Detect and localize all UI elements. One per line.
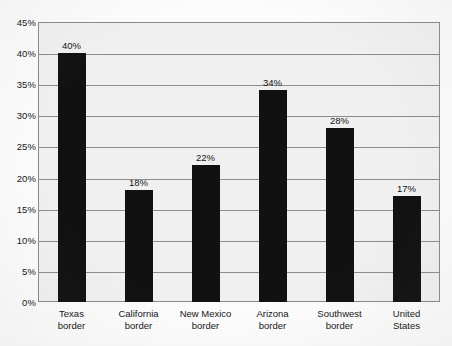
bar-value-label: 34% — [263, 77, 282, 88]
gridline — [39, 241, 439, 242]
gridline — [39, 210, 439, 211]
gridline — [39, 85, 439, 86]
gridline — [39, 147, 439, 148]
x-axis-category-label-line: States — [393, 320, 420, 332]
y-axis-tick-label: 25% — [17, 141, 36, 152]
y-axis-tick-label: 5% — [22, 265, 36, 276]
x-axis-category-label-line: border — [256, 320, 288, 332]
x-axis-category-label: Southwestborder — [317, 308, 361, 331]
bar — [58, 53, 86, 302]
y-axis-tick-label: 10% — [17, 234, 36, 245]
y-axis-tick-label: 40% — [17, 48, 36, 59]
x-axis-category-label-line: California — [118, 308, 158, 320]
bar — [259, 90, 287, 302]
bar — [393, 196, 421, 302]
x-axis-category-label-line: border — [58, 320, 85, 332]
bar — [192, 165, 220, 302]
bar-value-label: 28% — [330, 115, 349, 126]
x-axis-category-label-line: border — [118, 320, 158, 332]
y-axis-tick-label: 20% — [17, 172, 36, 183]
gridline — [39, 54, 439, 55]
bar — [326, 128, 354, 302]
plot-area — [38, 22, 440, 302]
x-axis-category-label: Californiaborder — [118, 308, 158, 331]
bar-value-label: 22% — [196, 152, 215, 163]
y-axis-tick-label: 35% — [17, 79, 36, 90]
gridline — [39, 272, 439, 273]
x-axis-category-label-line: United — [393, 308, 420, 320]
bar-chart: 0%5%10%15%20%25%30%35%40%45% 40%18%22%34… — [0, 0, 452, 346]
x-axis-category-label: UnitedStates — [393, 308, 420, 331]
x-axis-category-label-line: Texas — [58, 308, 85, 320]
x-axis-category-label-line: Southwest — [317, 308, 361, 320]
gridline — [39, 179, 439, 180]
x-axis-category-label-line: border — [180, 320, 232, 332]
x-axis-category-label-line: border — [317, 320, 361, 332]
x-axis-category-label: Texasborder — [58, 308, 85, 331]
x-axis-category-label: Arizonaborder — [256, 308, 288, 331]
x-axis-category-label-line: Arizona — [256, 308, 288, 320]
gridline — [39, 116, 439, 117]
y-axis-tick-label: 15% — [17, 203, 36, 214]
bar-value-label: 40% — [62, 40, 81, 51]
y-axis-tick-label: 0% — [22, 297, 36, 308]
x-axis-category-label-line: New Mexico — [180, 308, 232, 320]
x-axis-category-label: New Mexicoborder — [180, 308, 232, 331]
bar-value-label: 17% — [397, 183, 416, 194]
y-axis-tick-label: 30% — [17, 110, 36, 121]
bar — [125, 190, 153, 302]
bar-value-label: 18% — [129, 177, 148, 188]
y-axis-tick-label: 45% — [17, 17, 36, 28]
